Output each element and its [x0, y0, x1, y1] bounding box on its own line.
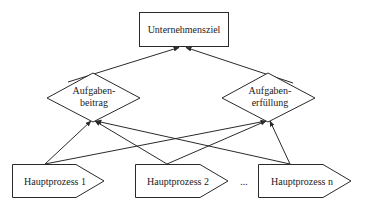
edge-hpn-to-beitrag — [96, 121, 290, 164]
criteria-label-erfuellung-line1: Aufgaben- — [249, 85, 292, 97]
criteria-label-beitrag: Aufgaben- beitrag — [73, 85, 116, 109]
process-label-1: Hauptprozess 1 — [24, 176, 86, 188]
process-label-n: Hauptprozess n — [271, 176, 333, 188]
criteria-label-erfuellung-line2: erfüllung — [249, 97, 292, 109]
edge-hp2-to-erfuellung — [167, 121, 266, 164]
edge-beitrag-to-goal — [68, 48, 179, 83]
edge-hpn-to-erfuellung — [270, 121, 290, 164]
criteria-label-erfuellung: Aufgaben- erfüllung — [249, 85, 292, 109]
edge-hp1-to-beitrag — [45, 121, 91, 164]
criteria-label-beitrag-line1: Aufgaben- — [73, 85, 116, 97]
goal-label: Unternehmensziel — [148, 24, 221, 36]
process-label-2: Hauptprozess 2 — [147, 176, 209, 188]
process-ellipsis: ... — [240, 176, 248, 188]
criteria-label-beitrag-line2: beitrag — [73, 97, 116, 109]
